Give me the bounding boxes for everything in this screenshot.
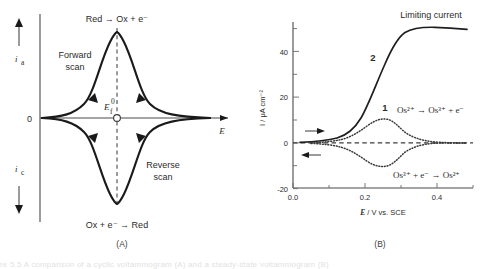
panel-a-oxidation-label: Red → Ox + e⁻ xyxy=(86,14,148,24)
figure-container: Red → Ox + e⁻ Ox + e⁻ → Red Forward scan… xyxy=(0,0,489,269)
panel-b-y-axis-label: I / μA cm⁻² xyxy=(258,90,267,126)
panel-a-anodic-direction-arrow-icon xyxy=(15,18,23,27)
panel-a-reverse-scan-label-line2: scan xyxy=(153,172,172,182)
panel-b-oxidation-label: Os²⁺ → Os³⁺ + e⁻ xyxy=(397,105,464,115)
panel-b-steady-state-voltammogram: -20 0 20 40 0.0 0.2 0.4 xyxy=(245,0,489,240)
panel-b-curve-2-number: 2 xyxy=(370,52,375,63)
panel-a-formal-potential-label: E xyxy=(103,102,110,112)
panel-b-y-ticklabel-40: 40 xyxy=(280,48,288,57)
panel-a-anodic-curve xyxy=(42,32,210,118)
panel-b-reduction-label: Os³⁺ + e⁻ → Os²⁺ xyxy=(393,170,460,180)
panel-b-x-axis-label-units: / V vs. SCE xyxy=(365,208,405,217)
panel-b-curve-1-number: 1 xyxy=(382,102,388,113)
panel-b-y-ticklabel-0: 0 xyxy=(284,139,288,148)
panel-b-x-ticklabel-0.0: 0.0 xyxy=(288,193,298,202)
panel-b-y-ticklabel-20: 20 xyxy=(280,93,288,102)
panel-a-cathodic-axis-subscript: c xyxy=(21,168,25,177)
panel-a-forward-scan-label-line1: Forward xyxy=(58,50,91,60)
panel-a-reduction-label: Ox + e⁻ → Red xyxy=(86,220,148,230)
panel-a-origin-label: 0 xyxy=(27,114,32,124)
truncated-caption-text: re 5.5 A comparison of a cyclic voltammo… xyxy=(0,261,489,269)
panel-a-x-axis-arrow-icon xyxy=(220,115,228,121)
panel-b-letter-label: (B) xyxy=(360,239,400,249)
panel-a-cathodic-axis-label: i xyxy=(15,164,18,174)
panel-a-forward-scan-label-line2: scan xyxy=(65,62,84,72)
panel-b-forward-sweep-arrow-icon xyxy=(317,128,325,134)
panel-b-svg: -20 0 20 40 0.0 0.2 0.4 xyxy=(245,0,489,240)
panel-b-x-axis-label: E / V vs. SCE xyxy=(359,208,405,217)
panel-a-x-axis-label: E xyxy=(218,126,225,136)
panel-a-formal-potential-subscript: f xyxy=(110,107,113,116)
panel-a-cathodic-direction-arrow-icon xyxy=(15,205,23,214)
panel-b-x-ticklabel-0.4: 0.4 xyxy=(432,193,442,202)
panel-a-reverse-scan-label-line1: Reverse xyxy=(146,160,180,170)
truncated-caption-strip: re 5.5 A comparison of a cyclic voltammo… xyxy=(0,261,489,269)
panel-a-formal-potential-marker xyxy=(114,115,121,122)
panel-b-reverse-sweep-arrow-icon xyxy=(301,152,309,158)
panel-a-anodic-axis-subscript: a xyxy=(21,58,25,67)
panel-b-cyclic-cathodic-curve xyxy=(311,143,467,167)
panel-b-y-ticklabel--20: -20 xyxy=(277,185,288,194)
panel-a-svg: Red → Ox + e⁻ Ox + e⁻ → Red Forward scan… xyxy=(0,0,245,240)
panel-a-cyclic-voltammogram: Red → Ox + e⁻ Ox + e⁻ → Red Forward scan… xyxy=(0,0,245,240)
panel-b-x-ticklabel-0.2: 0.2 xyxy=(360,193,370,202)
panel-a-cathodic-curve xyxy=(42,118,210,204)
panel-a-formal-potential-superscript: 0 xyxy=(111,97,115,106)
panel-a-letter-label: (A) xyxy=(102,239,142,249)
panel-b-limiting-current-label: Limiting current xyxy=(400,10,462,20)
panel-a-anodic-axis-label: i xyxy=(15,54,18,64)
panel-b-steady-state-curve xyxy=(300,27,467,142)
